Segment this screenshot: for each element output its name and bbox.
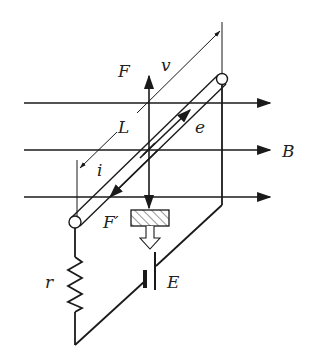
label-length: L bbox=[117, 117, 129, 137]
label-current: i bbox=[97, 160, 102, 180]
label-emf: e bbox=[195, 117, 205, 137]
rod-end-left bbox=[69, 216, 81, 228]
hatched-mass-block bbox=[131, 210, 169, 226]
label-battery: E bbox=[166, 272, 180, 292]
label-force-down: F′ bbox=[102, 212, 119, 232]
label-field: B bbox=[281, 141, 295, 161]
label-resistor: r bbox=[45, 272, 54, 292]
circuit-wires bbox=[68, 22, 222, 345]
diagram-canvas: F v L e i B F′ r E bbox=[0, 0, 312, 360]
battery bbox=[145, 252, 155, 290]
wire-bottom-to-battery bbox=[75, 281, 145, 345]
label-velocity: v bbox=[161, 55, 171, 75]
label-force-up: F bbox=[117, 61, 131, 81]
resistor-zigzag bbox=[68, 257, 82, 312]
rod-end-right bbox=[217, 74, 228, 85]
hollow-down-arrow-icon bbox=[140, 226, 160, 249]
